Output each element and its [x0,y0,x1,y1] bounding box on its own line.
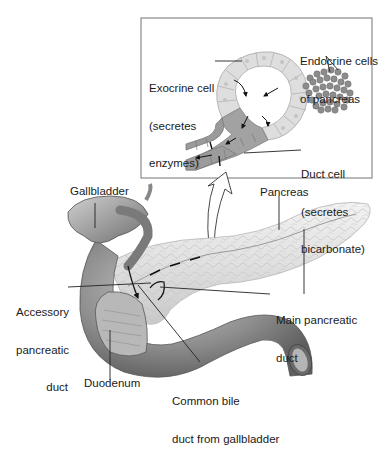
common-bile-duct-label: Common bile duct from gallbladder [172,370,279,449]
duodenum-label: Duodenum [84,377,140,390]
gallbladder-label: Gallbladder [70,185,129,198]
main-pancreatic-duct-label: Main pancreatic duct [276,289,357,389]
pancreas-label: Pancreas [260,186,309,199]
exocrine-cell-label: Exocrine cell (secretes enzymes) [149,57,214,195]
duct-cell-label: Duct cell (secretes bicarbonate) [301,143,365,281]
endocrine-cells-label: Endocrine cells of pancreas [300,30,378,130]
accessory-pancreatic-duct-label: Accessory pancreatic duct [16,281,68,419]
